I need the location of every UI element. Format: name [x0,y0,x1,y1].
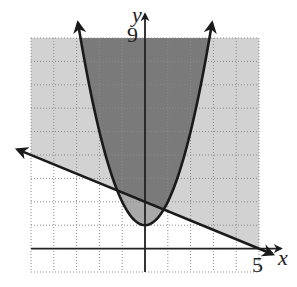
x-tick-label-5: 5 [252,252,263,277]
x-axis-label: x [277,245,288,270]
inequality-graph: y x 9 5 [0,0,297,287]
y-tick-label-9: 9 [127,22,138,47]
